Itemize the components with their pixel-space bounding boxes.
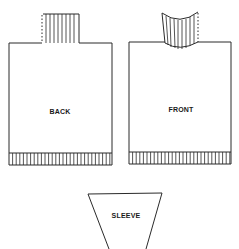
sleeve-label: SLEEVE — [112, 212, 141, 219]
front-waist-ribbing — [133, 152, 230, 164]
front-piece: FRONT — [129, 12, 231, 164]
back-waist-ribbing — [13, 153, 110, 165]
front-label: FRONT — [168, 106, 194, 113]
back-neck-collar — [42, 14, 79, 43]
sweater-pattern-diagram: BACK FRONT SLEEVE — [0, 0, 239, 249]
sleeve-piece: SLEEVE — [88, 193, 162, 249]
back-label: BACK — [49, 108, 70, 115]
front-neck-collar — [162, 12, 198, 49]
back-piece: BACK — [9, 14, 112, 165]
